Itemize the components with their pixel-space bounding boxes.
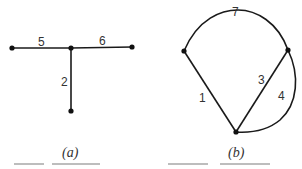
caption-b: (b) xyxy=(228,145,245,161)
caption-a: (a) xyxy=(62,145,79,161)
clipped-text-fragment xyxy=(52,163,100,165)
node-a-right xyxy=(129,44,134,49)
node-a-bottom xyxy=(68,108,73,113)
edge-label-3: 3 xyxy=(258,73,265,87)
node-b-bottom xyxy=(233,129,238,134)
panel-b-graph: 7 1 3 4 (b) xyxy=(181,5,295,161)
edge-1 xyxy=(184,51,236,132)
edge-4 xyxy=(236,50,296,132)
edge-label-7: 7 xyxy=(232,5,239,19)
edge-label-1: 1 xyxy=(199,91,206,105)
node-b-left xyxy=(181,48,186,53)
node-b-right xyxy=(285,47,290,52)
node-a-center xyxy=(68,45,73,50)
graph-figure: 5 6 2 (a) 7 1 3 4 (b) xyxy=(0,0,302,169)
clipped-text-fragment xyxy=(220,163,270,165)
panel-a-graph: 5 6 2 (a) xyxy=(9,34,134,161)
edge-label-6: 6 xyxy=(99,34,106,48)
clipped-text-fragment xyxy=(14,163,44,165)
edge-label-5: 5 xyxy=(38,35,45,49)
clipped-text-fragment xyxy=(168,163,208,165)
edge-label-4: 4 xyxy=(278,89,285,103)
edge-label-2: 2 xyxy=(61,75,68,89)
node-a-left xyxy=(9,45,14,50)
